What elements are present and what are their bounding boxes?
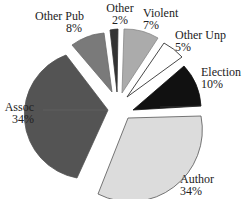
slice-assoc: [24, 55, 108, 178]
label-violent: Violent 7%: [143, 7, 178, 31]
label-other: Other 2%: [103, 2, 137, 26]
label-other-pub: Other Pub 8%: [35, 10, 82, 34]
slice-other: [110, 29, 118, 92]
label-election: Election 10%: [201, 66, 241, 90]
label-assoc: Assoc 34%: [2, 101, 34, 125]
label-other-unp: Other Unp 5%: [175, 29, 226, 53]
label-author: Author 34%: [180, 173, 214, 197]
